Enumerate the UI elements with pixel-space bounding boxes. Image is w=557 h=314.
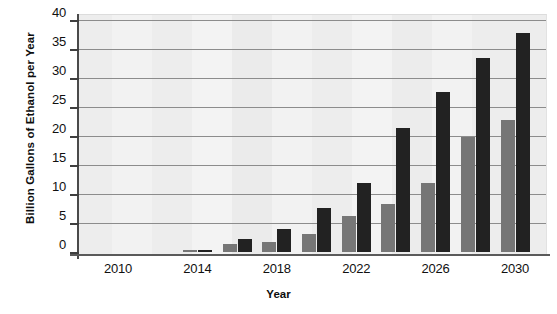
bar (421, 183, 435, 252)
bar (396, 128, 410, 252)
y-axis-tick (70, 20, 79, 22)
bar (183, 250, 197, 252)
x-axis-tick-label: 2014 (162, 261, 232, 276)
bar (476, 58, 490, 252)
x-axis-tick-label: 2022 (321, 261, 391, 276)
bar (436, 92, 450, 252)
y-axis-tick-label: 0 (20, 237, 66, 252)
y-axis-tick (70, 78, 79, 80)
y-axis-tick (70, 194, 79, 196)
x-axis-tick-label: 2010 (83, 261, 153, 276)
bar (302, 234, 316, 252)
bar (262, 242, 276, 252)
x-axis-tick-label: 2026 (401, 261, 471, 276)
bar (277, 229, 291, 252)
bars-layer (78, 14, 546, 255)
x-axis-tick-label: 2018 (242, 261, 312, 276)
bar (501, 120, 515, 252)
y-axis-tick (70, 165, 79, 167)
y-axis-tick (70, 252, 79, 254)
y-axis-tick (70, 49, 79, 51)
ethanol-production-bar-chart: Billion Gallons of Ethanol per Year 0510… (0, 0, 557, 314)
bar (198, 250, 212, 252)
bar (357, 183, 371, 252)
y-axis-tick-label: 5 (20, 208, 66, 223)
y-axis-tick-label: 15 (20, 150, 66, 165)
y-axis-tick-label: 20 (20, 121, 66, 136)
y-axis-tick-label: 25 (20, 92, 66, 107)
y-axis-tick (70, 136, 79, 138)
bar (342, 216, 356, 252)
x-axis-tick-label: 2030 (480, 261, 550, 276)
y-axis-tick (70, 223, 79, 225)
y-axis-tick-label: 35 (20, 34, 66, 49)
y-axis-tick-label: 10 (20, 179, 66, 194)
bar (381, 204, 395, 252)
bar (223, 244, 237, 252)
bar (516, 33, 530, 252)
y-axis-tick (70, 107, 79, 109)
y-axis-tick-label: 40 (20, 5, 66, 20)
x-axis-line (70, 254, 550, 256)
x-axis-title: Year (0, 288, 557, 300)
y-axis-tick-label: 30 (20, 63, 66, 78)
bar (238, 239, 252, 252)
bar (461, 137, 475, 252)
bar (317, 208, 331, 252)
